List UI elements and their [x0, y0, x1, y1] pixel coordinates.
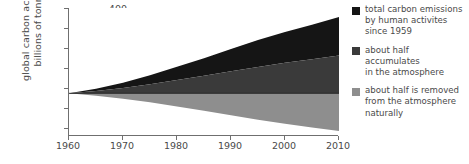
legend-item-removed: about half is removed from the atmospher…: [352, 85, 469, 119]
legend-line: naturally: [365, 108, 459, 119]
x-tick-1960: 1960: [48, 141, 88, 151]
legend-label-accumulates: about half accumulates in the atmosphere: [365, 45, 444, 79]
legend-item-accumulates: about half accumulates in the atmosphere: [352, 45, 469, 79]
x-tickmark-2010: [338, 136, 339, 140]
legend-item-total-emissions: total carbon emissions by human activite…: [352, 4, 469, 38]
legend-line: about half is removed: [365, 85, 459, 96]
area-chart-svg: [69, 8, 339, 136]
legend-swatch-accumulates: [352, 47, 360, 55]
legend-label-total-emissions: total carbon emissions by human activite…: [365, 4, 462, 38]
x-tick-2000: 2000: [264, 141, 304, 151]
legend-line: accumulates: [365, 56, 444, 67]
chart-figure: global carbon accumulation/ billions of …: [0, 0, 469, 164]
series-removed-band: [69, 93, 339, 131]
legend-line: from the atmosphere: [365, 96, 459, 107]
x-tick-1980: 1980: [156, 141, 196, 151]
legend-swatch-removed: [352, 88, 360, 96]
legend-line: by human activites: [365, 15, 462, 26]
legend-line: in the atmosphere: [365, 67, 444, 78]
chart-legend: total carbon emissions by human activite…: [352, 4, 469, 126]
x-tick-2010: 2010: [318, 141, 358, 151]
legend-line: about half: [365, 45, 444, 56]
plot-area: [68, 8, 338, 136]
x-tickmark-1990: [230, 136, 231, 140]
legend-line: total carbon emissions: [365, 4, 462, 15]
x-tick-1990: 1990: [210, 141, 250, 151]
legend-label-removed: about half is removed from the atmospher…: [365, 85, 459, 119]
legend-line: since 1959: [365, 26, 462, 37]
y-axis-label-line2: billions of tonnes: [32, 0, 56, 96]
x-tickmark-1970: [122, 136, 123, 140]
x-tickmark-2000: [284, 136, 285, 140]
legend-swatch-total-emissions: [352, 7, 360, 15]
x-tickmark-1960: [68, 136, 69, 140]
x-tick-1970: 1970: [102, 141, 142, 151]
x-tickmark-1980: [176, 136, 177, 140]
